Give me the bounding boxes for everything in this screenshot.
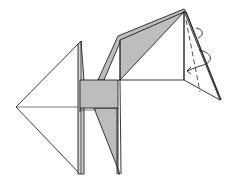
head-flap <box>184 11 220 100</box>
diagram-canvas <box>0 0 238 184</box>
rear-flap <box>16 41 81 174</box>
body <box>80 80 118 108</box>
origami-diagram <box>0 0 238 184</box>
front-leg <box>94 108 120 174</box>
